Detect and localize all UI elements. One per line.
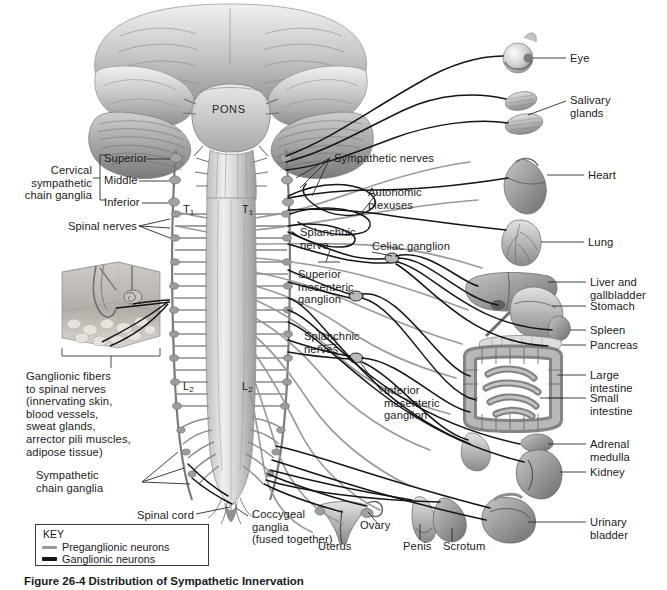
heart-illustration bbox=[504, 159, 546, 214]
label-eye: Eye bbox=[570, 52, 590, 65]
skin-inset-illustration bbox=[62, 262, 170, 366]
key-item-ganglionic: Ganglionic neurons bbox=[42, 553, 202, 565]
eye-illustration bbox=[503, 33, 536, 73]
sympathetic-innervation-figure: PONS T1 T1 L2 L2 Cervical sympathetic ch… bbox=[0, 0, 667, 590]
label-heart: Heart bbox=[588, 169, 616, 182]
label-salivary-glands: Salivary glands bbox=[570, 94, 611, 119]
label-kidney: Kidney bbox=[590, 466, 625, 479]
lung-illustration bbox=[502, 220, 541, 266]
segment-label-l2-left: L2 bbox=[183, 380, 194, 392]
label-cervical-sympathetic-chain-ganglia: Cervical sympathetic chain ganglia bbox=[0, 164, 92, 202]
key-legend: KEY Preganglionic neurons Ganglionic neu… bbox=[35, 524, 209, 566]
label-sympathetic-nerves: Sympathetic nerves bbox=[334, 152, 434, 165]
label-liver-and-gallbladder: Liver and gallbladder bbox=[590, 276, 646, 301]
segment-label-l2-right: L2 bbox=[242, 380, 253, 392]
label-superior-mesenteric-ganglion: Superior mesenteric ganglion bbox=[298, 268, 354, 306]
key-item-preganglionic: Preganglionic neurons bbox=[42, 541, 202, 553]
label-spinal-nerves: Spinal nerves bbox=[0, 220, 137, 233]
label-lung: Lung bbox=[588, 236, 613, 249]
label-celiac-ganglion: Celiac ganglion bbox=[372, 240, 450, 253]
label-splanchnic-nerves: Splanchnic nerves bbox=[304, 330, 360, 355]
spinal-cord-illustration bbox=[206, 198, 256, 524]
urinary-bladder-illustration bbox=[482, 494, 536, 543]
brain-illustration bbox=[89, 4, 374, 200]
segment-label-t1-left: T1 bbox=[183, 203, 194, 215]
label-ovary: Ovary bbox=[360, 519, 390, 532]
figure-caption-title: Distribution of Sympathetic Innervation bbox=[89, 575, 304, 587]
key-item-preganglionic-label: Preganglionic neurons bbox=[62, 541, 169, 553]
preganglionic-swatch-icon bbox=[42, 546, 57, 549]
label-penis: Penis bbox=[403, 540, 432, 553]
figure-caption: Figure 26-4 Distribution of Sympathetic … bbox=[24, 575, 644, 590]
label-small-intestine: Small intestine bbox=[590, 392, 633, 417]
label-inferior: Inferior bbox=[104, 196, 140, 209]
label-uterus: Uterus bbox=[318, 540, 352, 553]
ganglionic-swatch-icon bbox=[42, 557, 57, 561]
label-middle: Middle bbox=[104, 174, 138, 187]
label-large-intestine: Large intestine bbox=[590, 369, 633, 394]
segment-label-t1-right: T1 bbox=[242, 203, 253, 215]
label-scrotum: Scrotum bbox=[443, 540, 485, 553]
label-ganglionic-fibers: Ganglionic fibers to spinal nerves (inne… bbox=[26, 370, 131, 458]
key-title: KEY bbox=[43, 528, 202, 540]
label-autonomic-plexuses: Autonomic plexuses bbox=[368, 186, 422, 211]
label-stomach: Stomach bbox=[590, 300, 635, 313]
label-pancreas: Pancreas bbox=[590, 339, 638, 352]
label-adrenal-medulla: Adrenal medulla bbox=[590, 438, 630, 463]
large-intestine-illustration bbox=[463, 348, 563, 430]
pons-label: PONS bbox=[212, 103, 246, 115]
label-sympathetic-chain-ganglia: Sympathetic chain ganglia bbox=[36, 469, 103, 494]
spleen-illustration bbox=[548, 316, 570, 341]
label-spinal-cord: Spinal cord bbox=[56, 509, 194, 522]
label-urinary-bladder: Urinary bladder bbox=[590, 516, 628, 541]
key-item-ganglionic-label: Ganglionic neurons bbox=[62, 553, 155, 565]
label-superior: Superior bbox=[104, 152, 147, 165]
label-inferior-mesenteric-ganglion: Inferior mesenteric ganglion bbox=[384, 384, 440, 422]
label-splanchnic-nerve: Splanchnic nerve bbox=[300, 226, 356, 251]
salivary-glands-illustration bbox=[503, 89, 544, 137]
figure-caption-number: Figure 26-4 bbox=[24, 575, 85, 587]
label-spleen: Spleen bbox=[590, 324, 625, 337]
